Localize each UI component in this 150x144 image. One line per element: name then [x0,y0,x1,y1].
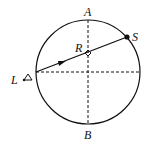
label-b: B [84,128,92,142]
arrow-head-icon [58,61,66,66]
label-s: S [132,30,138,44]
point-s [124,34,129,39]
diagram: A B L S R [0,0,150,144]
light-source-icon [24,74,32,80]
label-r: R [74,41,83,55]
label-l: L [10,73,18,87]
label-a: A [83,5,92,19]
light-source-dot [23,79,25,81]
